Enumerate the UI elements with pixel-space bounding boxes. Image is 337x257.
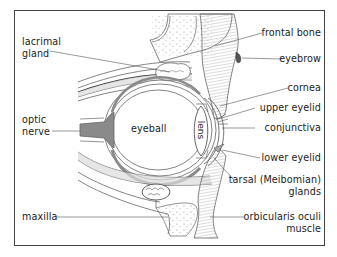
label-maxilla: maxilla [22, 211, 57, 223]
label-tarsal-glands: tarsal (Meibomian) glands [229, 174, 321, 198]
label-eyebrow: eyebrow [279, 53, 321, 65]
label-frontal-bone-text: frontal bone [261, 27, 321, 39]
label-orbicularis-oculi-muscle: orbicularis oculi muscle [244, 211, 321, 235]
label-cornea: cornea [288, 82, 321, 94]
label-optic-nerve: optic nerve [22, 114, 50, 138]
label-eyebrow-text: eyebrow [279, 53, 321, 65]
label-conjunctiva: conjunctiva [265, 122, 321, 134]
label-lens: lens [196, 120, 206, 140]
optic-nerve-shape [80, 112, 114, 148]
label-frontal-bone: frontal bone [261, 27, 321, 39]
label-lower-eyelid: lower eyelid [262, 152, 321, 164]
label-upper-eyelid-text: upper eyelid [260, 102, 321, 114]
eyebrow-shape [236, 52, 241, 63]
label-orbicularis-line2: muscle [244, 223, 321, 235]
label-lacrimal-gland: lacrimal gland [22, 36, 61, 60]
label-lacrimal-gland-line1: lacrimal [22, 36, 61, 48]
label-eyeball: eyeball [131, 123, 166, 135]
label-cornea-text: cornea [288, 82, 321, 94]
label-optic-nerve-line1: optic [22, 114, 50, 126]
label-lacrimal-gland-line2: gland [22, 48, 61, 60]
label-orbicularis-line1: orbicularis oculi [244, 211, 321, 223]
label-conjunctiva-text: conjunctiva [265, 122, 321, 134]
label-tarsal-glands-line2: glands [229, 186, 321, 198]
label-upper-eyelid: upper eyelid [260, 102, 321, 114]
label-lower-eyelid-text: lower eyelid [262, 152, 321, 164]
infraorbital-bundle [142, 184, 170, 208]
maxilla-shape [156, 203, 198, 236]
label-tarsal-glands-line1: tarsal (Meibomian) [229, 174, 321, 186]
label-maxilla-text: maxilla [22, 211, 57, 223]
label-optic-nerve-line2: nerve [22, 126, 50, 138]
